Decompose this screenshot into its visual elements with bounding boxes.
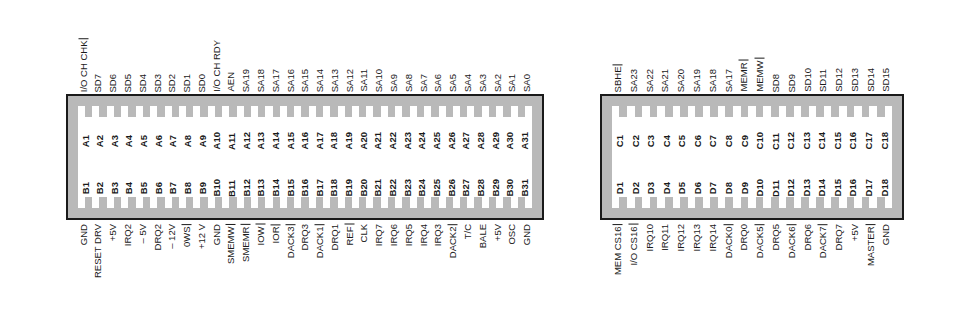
pin-cell: C1 — [612, 119, 628, 163]
signal-cell: IRQ4 — [416, 224, 431, 246]
connector-tooth — [99, 197, 106, 208]
pin-number: A15 — [286, 132, 296, 149]
pin-cell: C11 — [768, 119, 784, 163]
pin-number: A1 — [81, 135, 91, 147]
pin-number: C11 — [771, 133, 781, 150]
signal-name: CLK — [359, 224, 369, 242]
pin-cell: A1 — [78, 119, 93, 163]
connector-tooth — [862, 197, 870, 208]
tooth-gap — [136, 197, 143, 208]
pin-number: B13 — [256, 179, 266, 196]
signal-name: SA20 — [676, 69, 686, 92]
connector-tooth — [215, 106, 222, 117]
connector-tooth — [200, 106, 207, 117]
signal-name: SMEMR — [241, 224, 251, 262]
connector-tooth — [446, 197, 453, 208]
pin-number: B29 — [491, 179, 501, 196]
signal-cell: SA11 — [357, 69, 372, 92]
tooth-gap — [150, 106, 157, 117]
connector-tooth — [99, 106, 106, 117]
pin-number: C10 — [755, 132, 765, 149]
connector-tooth — [489, 197, 496, 208]
pin-number: B30 — [505, 179, 515, 196]
pin-number: D18 — [880, 179, 890, 196]
signal-name: SA8 — [404, 74, 414, 92]
signal-cell: SA21 — [657, 69, 673, 92]
pin-number: D11 — [771, 180, 781, 197]
pin-cell: A27 — [459, 119, 474, 163]
connector-tooth — [316, 197, 323, 208]
pin-number: D14 — [817, 179, 827, 196]
pin-number: A28 — [476, 132, 486, 149]
signal-name: IRQ10 — [645, 224, 655, 251]
pin-cell: A12 — [239, 119, 254, 163]
pin-cell: A7 — [166, 119, 181, 163]
connector-left-8bit-slot: A1A2A3A4A5A6A7A8A9A10A11A12A13A14A15A16A… — [66, 94, 544, 220]
signal-name: MEMW — [755, 58, 765, 92]
tooth-gap — [642, 106, 649, 117]
signal-cell: SD0 — [194, 74, 209, 92]
signal-cell: SA13 — [327, 69, 342, 92]
tooth-gap — [673, 197, 680, 208]
connector-left-teeth-top — [78, 106, 532, 117]
signal-name: SA21 — [660, 69, 670, 92]
pin-cell: A26 — [444, 119, 459, 163]
pin-cell: A5 — [137, 119, 152, 163]
tooth-gap — [525, 197, 532, 208]
pin-number: B6 — [154, 182, 164, 194]
connector-tooth — [287, 197, 294, 208]
connector-tooth — [695, 197, 703, 208]
tooth-gap — [794, 197, 801, 208]
pin-number: B4 — [124, 182, 134, 194]
tooth-gap — [280, 106, 287, 117]
pin-cell: C4 — [659, 119, 675, 163]
connector-tooth — [431, 106, 438, 117]
pin-cell: C3 — [643, 119, 659, 163]
tooth-gap — [265, 106, 272, 117]
pin-cell: A4 — [122, 119, 137, 163]
connector-tooth — [786, 197, 794, 208]
pin-number: A31 — [520, 132, 530, 149]
signal-name: SA3 — [478, 74, 488, 92]
signal-name: SA13 — [330, 69, 340, 92]
connector-tooth — [229, 197, 236, 208]
connector-left-pin-row-a: A1A2A3A4A5A6A7A8A9A10A11A12A13A14A15A16A… — [78, 119, 532, 163]
pin-number: A20 — [359, 132, 369, 149]
tooth-gap — [165, 197, 172, 208]
connector-tooth — [710, 106, 718, 117]
signal-cell: SD9 — [784, 74, 800, 92]
connector-tooth — [695, 106, 703, 117]
connector-tooth — [186, 197, 193, 208]
pin-number: A25 — [432, 132, 442, 149]
signal-cell: SD10 — [799, 68, 815, 92]
signal-cell: SD8 — [768, 74, 784, 92]
pin-number: B26 — [447, 179, 457, 196]
connector-tooth — [680, 197, 688, 208]
connector-tooth — [172, 106, 179, 117]
signal-name: DACK6 — [787, 224, 797, 258]
signal-cell: SA6 — [431, 74, 446, 92]
signal-cell: SD3 — [150, 74, 165, 92]
connector-tooth — [143, 197, 150, 208]
signal-cell: 0WS — [179, 224, 194, 247]
pin-cell: C9 — [737, 119, 753, 163]
pin-number: D17 — [864, 179, 874, 196]
tooth-gap — [748, 106, 755, 117]
pin-cell: A14 — [268, 119, 283, 163]
pin-number: B1 — [81, 182, 91, 194]
signal-name: SA18 — [256, 69, 266, 92]
signal-name: SD3 — [153, 74, 163, 92]
pin-number: B12 — [242, 179, 252, 196]
connector-tooth — [650, 197, 658, 208]
signal-name: DRQ7 — [834, 224, 844, 250]
connector-tooth — [460, 197, 467, 208]
signal-name: IRQ12 — [676, 224, 686, 251]
pin-cell: A30 — [503, 119, 518, 163]
tooth-gap — [165, 106, 172, 117]
tooth-gap — [824, 197, 831, 208]
signal-cell: SA16 — [283, 69, 298, 92]
signal-cell: DRQ1 — [327, 224, 342, 250]
pin-number: A17 — [315, 132, 325, 149]
signal-cell: SA20 — [673, 69, 689, 92]
connector-tooth — [725, 197, 733, 208]
